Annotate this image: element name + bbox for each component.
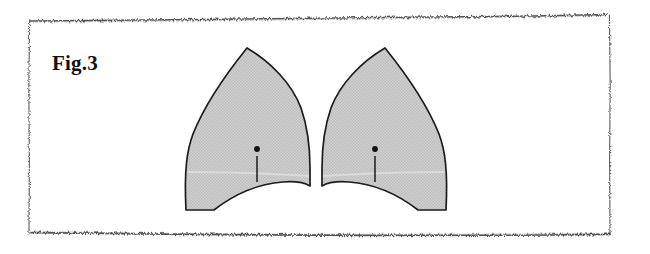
border-top-rule (30, 14, 607, 22)
right-leaf-shape (322, 48, 447, 210)
scanned-figure-page: Fig.3 (0, 0, 650, 254)
left-marker-dot (254, 146, 260, 152)
figure-caption: Fig.3 (52, 51, 98, 75)
right-marker-dot (372, 146, 378, 152)
border-left-rule (29, 20, 30, 233)
left-leaf-shape (185, 48, 310, 210)
figure-canvas: Fig.3 (0, 0, 650, 254)
border-right-rule (609, 15, 610, 234)
page-border (29, 14, 610, 235)
border-bottom-rule (31, 231, 610, 235)
